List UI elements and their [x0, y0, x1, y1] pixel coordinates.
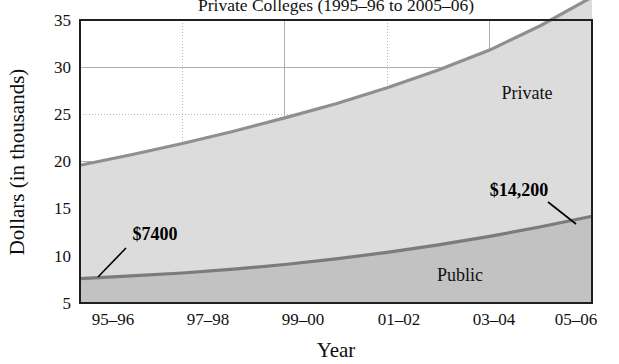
- y-tick-10: 10: [54, 247, 71, 266]
- y-tick-25: 25: [54, 105, 71, 124]
- y-tick-15: 15: [54, 199, 71, 218]
- y-tick-30: 30: [54, 58, 71, 77]
- y-tick-20: 20: [54, 152, 71, 171]
- y-tick-5: 5: [63, 294, 72, 313]
- annotation-7400-label: $7400: [133, 224, 178, 244]
- x-tick-97-98: 97–98: [187, 310, 230, 329]
- series-label-private: Private: [502, 83, 553, 103]
- x-tick-99-00: 99–00: [282, 310, 325, 329]
- chart-title: Private Colleges (1995–96 to 2005–06): [198, 0, 474, 15]
- series-label-public: Public: [437, 265, 483, 285]
- area-chart: Private Colleges (1995–96 to 2005–06): [0, 0, 619, 364]
- y-tick-35: 35: [54, 11, 71, 30]
- x-axis-title: Year: [317, 338, 356, 362]
- chart-container: Private Colleges (1995–96 to 2005–06): [0, 0, 619, 364]
- x-tick-95-96: 95–96: [92, 310, 135, 329]
- annotation-14200-label: $14,200: [490, 180, 549, 200]
- x-tick-05-06: 05–06: [555, 310, 598, 329]
- y-axis-title: Dollars (in thousands): [5, 69, 29, 256]
- x-tick-03-04: 03–04: [473, 310, 516, 329]
- x-tick-01-02: 01–02: [378, 310, 421, 329]
